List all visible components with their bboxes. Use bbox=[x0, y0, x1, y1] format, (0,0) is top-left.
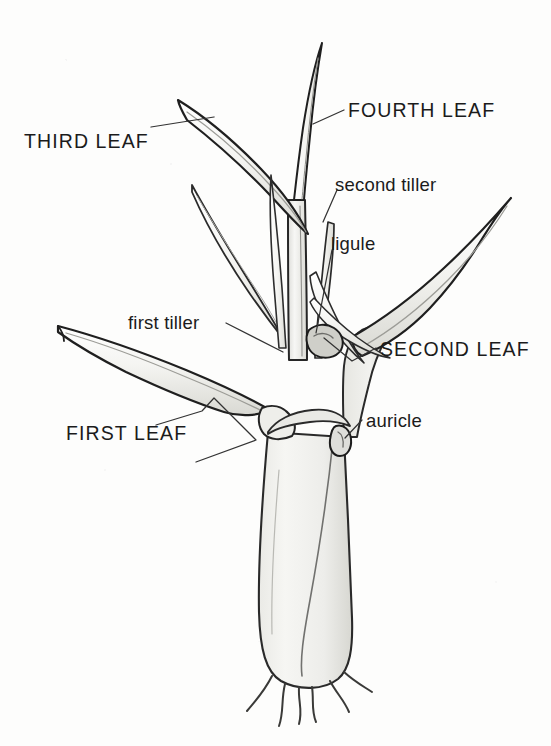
label-first-tiller: first tiller bbox=[128, 314, 199, 333]
label-first-leaf: FIRST LEAF bbox=[66, 424, 187, 444]
label-second-leaf: SECOND LEAF bbox=[380, 340, 530, 360]
figure-root: THIRD LEAF FOURTH LEAF second tiller lig… bbox=[0, 0, 551, 746]
main-sheath bbox=[259, 432, 352, 688]
label-fourth-leaf: FOURTH LEAF bbox=[348, 101, 495, 121]
label-third-leaf: THIRD LEAF bbox=[24, 132, 149, 152]
second-leaf-blade bbox=[352, 198, 511, 356]
label-auricle: auricle bbox=[366, 412, 422, 431]
label-ligule: ligule bbox=[331, 235, 375, 254]
label-second-tiller: second tiller bbox=[335, 176, 436, 195]
ligule-part bbox=[307, 325, 343, 358]
leader-fourth-leaf bbox=[313, 110, 344, 124]
auricle-part bbox=[330, 426, 351, 456]
